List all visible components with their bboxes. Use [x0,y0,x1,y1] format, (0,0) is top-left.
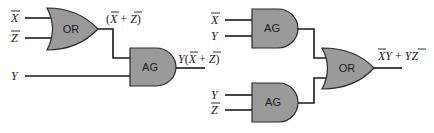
left-output-label: Y(X + Z) [178,52,221,66]
and-gate-right-bottom: AG [252,83,298,122]
wire-or-to-and [98,29,130,58]
logic-circuit-diagram: X Z Y OR (X + Z) [0,0,434,133]
svg-text:OR: OR [63,23,80,35]
svg-text:XY + YZ: XY + YZ [377,49,419,63]
right-output-label: XY + YZ [377,49,426,63]
left-circuit: X Z Y OR (X + Z) [10,8,221,86]
svg-text:AG: AG [264,22,280,34]
intermediate-expression-label: (X + Z) [106,12,142,26]
svg-text:X: X [210,13,219,27]
svg-text:Y: Y [11,69,19,83]
svg-text:AG: AG [265,96,281,108]
svg-text:Z: Z [11,31,18,45]
svg-text:AG: AG [142,61,158,73]
svg-text:OR: OR [339,62,356,74]
input-x-bar-label: X [10,11,20,25]
input-x-bar-label-right: X [210,13,220,27]
svg-text:Y: Y [211,29,219,43]
svg-text:(X + Z): (X + Z) [106,12,141,26]
input-y-label-right-top: Y [211,29,219,43]
input-z-bar-label: Z [11,31,20,45]
svg-text:Y(X + Z): Y(X + Z) [178,52,220,66]
input-y-label: Y [11,69,19,83]
wire-and-bottom-to-or [298,78,327,103]
svg-text:Y: Y [211,88,219,102]
and-gate-left: AG [130,48,176,86]
and-gate-right-top: AG [252,9,298,48]
or-gate-left: OR [47,8,98,50]
input-z-bar-label-right: Z [211,103,220,117]
input-y-label-right-bottom: Y [211,88,219,102]
right-circuit: X Y AG Y Z AG [210,9,426,122]
wire-and-top-to-or [297,29,327,58]
svg-text:X: X [10,11,19,25]
svg-text:Z: Z [211,103,218,117]
or-gate-right: OR [322,48,374,89]
